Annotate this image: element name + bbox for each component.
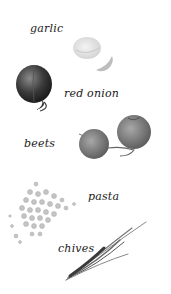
ingredient-illustration: garlic red onion beets [0,0,171,294]
beets-icon [78,112,162,164]
red-onion-label: red onion [64,87,119,100]
chives-icon [62,218,150,282]
pasta-label: pasta [88,190,119,203]
beets-label: beets [24,137,55,150]
garlic-icon [72,36,118,76]
garlic-label: garlic [30,22,63,35]
red-onion-icon [14,62,60,112]
